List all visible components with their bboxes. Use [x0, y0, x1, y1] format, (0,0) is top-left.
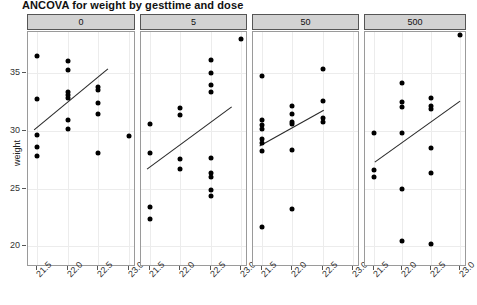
data-point	[96, 87, 101, 92]
plot-area	[140, 31, 247, 266]
y-tick-mark	[22, 72, 26, 73]
facet-panel: 500	[364, 31, 466, 266]
data-point	[371, 168, 376, 173]
data-point	[178, 167, 183, 172]
data-point	[178, 106, 183, 111]
data-point	[290, 122, 295, 127]
data-point	[238, 36, 243, 41]
data-point	[35, 145, 40, 150]
data-point	[290, 111, 295, 116]
data-point	[208, 57, 213, 62]
regression-line	[365, 32, 465, 265]
y-tick-mark	[22, 130, 26, 131]
data-point	[208, 155, 213, 160]
data-point	[458, 33, 463, 38]
data-point	[320, 99, 325, 104]
data-point	[65, 68, 70, 73]
page-title: ANCOVA for weight by gesttime and dose	[22, 0, 243, 11]
data-point	[260, 126, 265, 131]
data-point	[96, 150, 101, 155]
data-point	[371, 131, 376, 136]
data-point	[148, 122, 153, 127]
y-tick-mark	[22, 188, 26, 189]
data-point	[260, 73, 265, 78]
plot-area	[364, 31, 466, 266]
data-point	[400, 131, 405, 136]
y-tick-label: 20	[0, 240, 20, 250]
regression-line	[28, 32, 134, 265]
data-point	[208, 193, 213, 198]
regression-line	[253, 32, 358, 265]
facet-panel: 5	[140, 31, 247, 266]
plot-area	[27, 31, 135, 266]
data-point	[290, 103, 295, 108]
data-point	[148, 216, 153, 221]
data-point	[260, 224, 265, 229]
data-point	[35, 54, 40, 59]
data-point	[65, 95, 70, 100]
data-point	[260, 117, 265, 122]
y-tick-label: 30	[0, 125, 20, 135]
data-point	[96, 111, 101, 116]
data-point	[208, 89, 213, 94]
panel-strip-label: 0	[27, 14, 135, 30]
data-point	[429, 107, 434, 112]
data-point	[35, 96, 40, 101]
data-point	[35, 132, 40, 137]
y-tick-label: 25	[0, 183, 20, 193]
data-point	[290, 147, 295, 152]
facet-panel: 50	[252, 31, 359, 266]
data-point	[208, 71, 213, 76]
data-point	[429, 95, 434, 100]
data-point	[208, 187, 213, 192]
data-point	[35, 154, 40, 159]
data-point	[126, 133, 131, 138]
data-point	[65, 117, 70, 122]
data-point	[65, 126, 70, 131]
data-point	[260, 140, 265, 145]
data-point	[371, 175, 376, 180]
panel-strip-label: 500	[364, 14, 466, 30]
y-tick-label: 35	[0, 67, 20, 77]
data-point	[400, 104, 405, 109]
facet-panel: 0	[27, 31, 135, 266]
data-point	[208, 175, 213, 180]
data-point	[178, 112, 183, 117]
data-point	[320, 66, 325, 71]
panel-strip-label: 5	[140, 14, 247, 30]
data-point	[429, 241, 434, 246]
data-point	[178, 156, 183, 161]
data-point	[96, 101, 101, 106]
data-point	[400, 80, 405, 85]
data-point	[429, 170, 434, 175]
data-point	[260, 148, 265, 153]
data-point	[320, 119, 325, 124]
data-point	[208, 82, 213, 87]
data-point	[65, 58, 70, 63]
regression-line	[141, 32, 246, 265]
data-point	[429, 146, 434, 151]
plot-area	[252, 31, 359, 266]
data-point	[148, 205, 153, 210]
panel-strip-label: 50	[252, 14, 359, 30]
y-tick-mark	[22, 245, 26, 246]
data-point	[400, 186, 405, 191]
data-point	[148, 150, 153, 155]
data-point	[400, 238, 405, 243]
data-point	[290, 207, 295, 212]
